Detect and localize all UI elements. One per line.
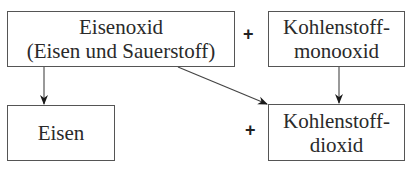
node-eisen-line1: Eisen [38, 121, 85, 145]
node-kohlenstoffdioxid: Kohlenstoff- dioxid [268, 104, 405, 161]
node-kohlenstoffmonooxid-line1: Kohlenstoff- [283, 15, 390, 39]
node-eisenoxid-line2: (Eisen und Sauerstoff) [27, 39, 216, 63]
arrow-eisenoxid-to-kohlenstoffdioxid [178, 67, 267, 104]
node-eisenoxid-line1: Eisenoxid [79, 15, 163, 39]
plus-sign-bottom: + [245, 120, 256, 141]
node-eisen: Eisen [7, 105, 115, 161]
node-kohlenstoffdioxid-line2: dioxid [310, 133, 364, 157]
plus-sign-top: + [243, 24, 254, 45]
node-kohlenstoffmonooxid: Kohlenstoff- monooxid [268, 11, 405, 67]
node-kohlenstoffmonooxid-line2: monooxid [294, 39, 379, 63]
node-eisenoxid: Eisenoxid (Eisen und Sauerstoff) [7, 11, 235, 67]
node-kohlenstoffdioxid-line1: Kohlenstoff- [283, 109, 390, 133]
